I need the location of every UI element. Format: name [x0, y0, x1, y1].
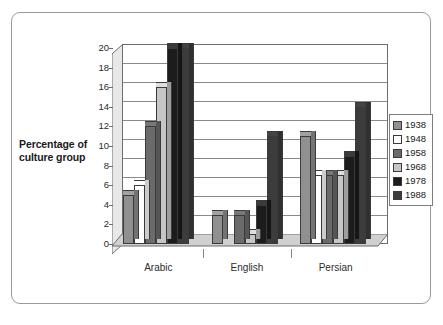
bar-side-face — [223, 210, 228, 239]
y-axis-tick-label: 0 — [85, 239, 109, 248]
bar-side-face — [167, 82, 172, 239]
legend-label: 1938 — [405, 120, 426, 130]
bar-side-face — [333, 170, 338, 239]
bar-side-face — [145, 180, 150, 239]
x-axis-category-label: Persian — [296, 262, 376, 273]
bar — [123, 195, 134, 244]
legend-swatch — [393, 121, 402, 130]
bar-side-face — [134, 190, 139, 239]
y-axis-tick-label: 20 — [85, 43, 109, 52]
y-axis-tick-label: 4 — [85, 200, 109, 209]
y-axis-tick-mark — [109, 244, 113, 245]
y-axis-tick-label: 6 — [85, 180, 109, 189]
legend-swatch — [393, 177, 402, 186]
gridline — [123, 63, 387, 64]
y-axis-tick-label: 10 — [85, 141, 109, 150]
y-axis-tick-mark — [109, 205, 113, 206]
legend-swatch — [393, 191, 402, 200]
bar-front-face — [234, 215, 245, 244]
x-axis-tick-mark — [203, 249, 204, 258]
bar — [300, 136, 311, 244]
bar-front-face — [212, 215, 223, 244]
bar-side-face — [355, 151, 360, 239]
legend-item: 1948 — [393, 132, 429, 146]
legend-swatch — [393, 135, 402, 144]
x-axis-category-label: Arabic — [118, 262, 198, 273]
bar-front-face — [123, 195, 134, 244]
y-axis-tick-label: 16 — [85, 82, 109, 91]
legend-item: 1978 — [393, 174, 429, 188]
bar-side-face — [189, 43, 194, 239]
x-axis-tick-mark — [291, 249, 292, 258]
bar-side-face — [366, 102, 371, 239]
y-axis-tick-mark — [109, 126, 113, 127]
bar — [234, 215, 245, 244]
bar — [212, 215, 223, 244]
bar-side-face — [178, 43, 183, 239]
y-axis-tick-mark — [109, 68, 113, 69]
y-axis-tick-label: 2 — [85, 219, 109, 228]
legend-item: 1988 — [393, 188, 429, 202]
legend-item: 1968 — [393, 160, 429, 174]
y-axis-tick-label: 14 — [85, 102, 109, 111]
y-axis-tick-label: 8 — [85, 161, 109, 170]
legend-label: 1988 — [405, 190, 426, 200]
bar-side-face — [256, 229, 261, 239]
y-axis-tick-mark — [109, 146, 113, 147]
legend-swatch — [393, 149, 402, 158]
legend-label: 1948 — [405, 134, 426, 144]
bar-side-face — [245, 210, 250, 239]
chart-page: Percentage of culture group 024681012141… — [0, 0, 443, 325]
y-axis-tick-mark — [109, 224, 113, 225]
legend-item: 1958 — [393, 146, 429, 160]
y-axis: 02468101214161820 — [83, 0, 109, 325]
y-axis-tick-label: 18 — [85, 63, 109, 72]
y-axis-tick-mark — [109, 87, 113, 88]
x-axis-category-label: English — [207, 262, 287, 273]
y-axis-tick-mark — [109, 107, 113, 108]
bar-side-face — [344, 170, 349, 239]
bar-side-face — [311, 131, 316, 239]
bar-side-face — [156, 121, 161, 239]
y-axis-tick-mark — [109, 185, 113, 186]
y-axis-tick-mark — [109, 48, 113, 49]
gridline — [123, 44, 387, 45]
legend-label: 1968 — [405, 162, 426, 172]
bar-front-face — [300, 136, 311, 244]
legend-item: 1938 — [393, 118, 429, 132]
bar-side-face — [267, 200, 272, 239]
y-axis-tick-label: 12 — [85, 121, 109, 130]
legend-label: 1978 — [405, 176, 426, 186]
legend-swatch — [393, 163, 402, 172]
bar-side-face — [322, 170, 327, 239]
legend-label: 1958 — [405, 148, 426, 158]
bar-side-face — [278, 131, 283, 239]
y-axis-tick-mark — [109, 166, 113, 167]
chart-legend: 193819481958196819781988 — [389, 114, 433, 206]
